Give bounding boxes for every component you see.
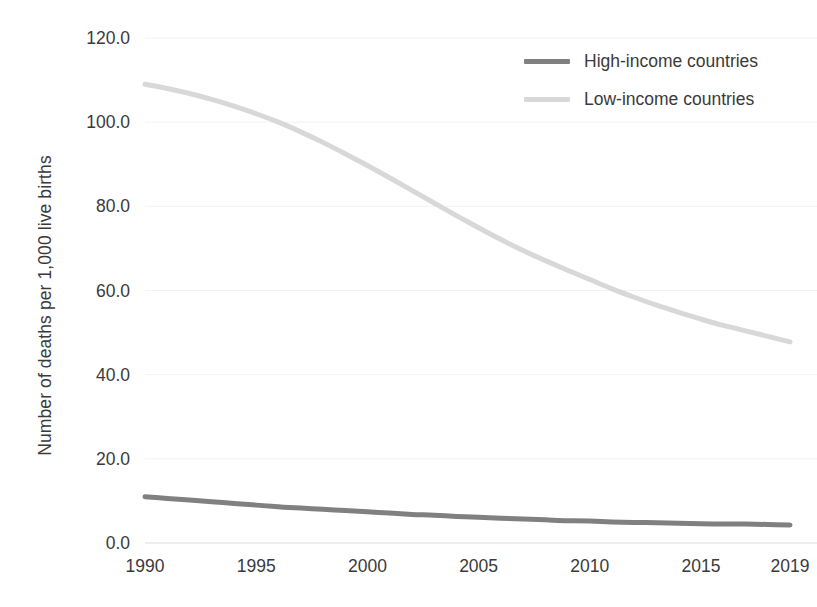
legend-item-label: Low-income countries	[584, 89, 754, 110]
chart-legend: High-income countriesLow-income countrie…	[524, 42, 804, 118]
series-line	[145, 497, 790, 525]
legend-line-swatch	[524, 59, 570, 64]
legend-line-swatch	[524, 97, 570, 102]
legend-item[interactable]: Low-income countries	[524, 80, 804, 118]
legend-item-label: High-income countries	[584, 51, 758, 72]
series-line	[145, 84, 790, 342]
line-chart: Number of deaths per 1,000 live births 0…	[0, 0, 817, 607]
legend-item[interactable]: High-income countries	[524, 42, 804, 80]
